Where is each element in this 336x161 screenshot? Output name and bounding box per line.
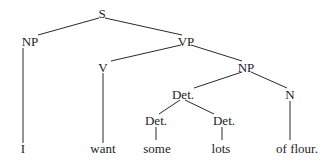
tree-edges: [0, 0, 336, 161]
node-det-right: Det.: [213, 114, 235, 127]
edge-vp-np: [191, 45, 242, 61]
leaf-i: I: [21, 142, 25, 155]
node-s: S: [98, 7, 105, 20]
node-np-subject: NP: [22, 35, 39, 48]
node-v: V: [98, 61, 107, 74]
leaf-lots: lots: [212, 142, 231, 155]
node-n: N: [285, 88, 294, 101]
node-det-left: Det.: [145, 114, 167, 127]
edge-vp-v: [111, 45, 181, 61]
syntax-tree-diagram: S NP VP V NP Det. N Det. Det. I want som…: [0, 0, 336, 161]
node-np-object: NP: [238, 61, 255, 74]
edge-det-detright: [185, 100, 214, 114]
edge-s-vp: [105, 18, 182, 35]
leaf-of-flour: of flour.: [276, 142, 318, 155]
leaf-some: some: [143, 142, 170, 155]
node-vp: VP: [178, 35, 195, 48]
edge-s-np: [38, 18, 99, 35]
leaf-want: want: [90, 142, 115, 155]
edge-det-detleft: [159, 100, 180, 114]
node-det-phrase: Det.: [172, 88, 194, 101]
edge-np-det: [194, 72, 242, 88]
edge-np-n: [251, 72, 287, 88]
